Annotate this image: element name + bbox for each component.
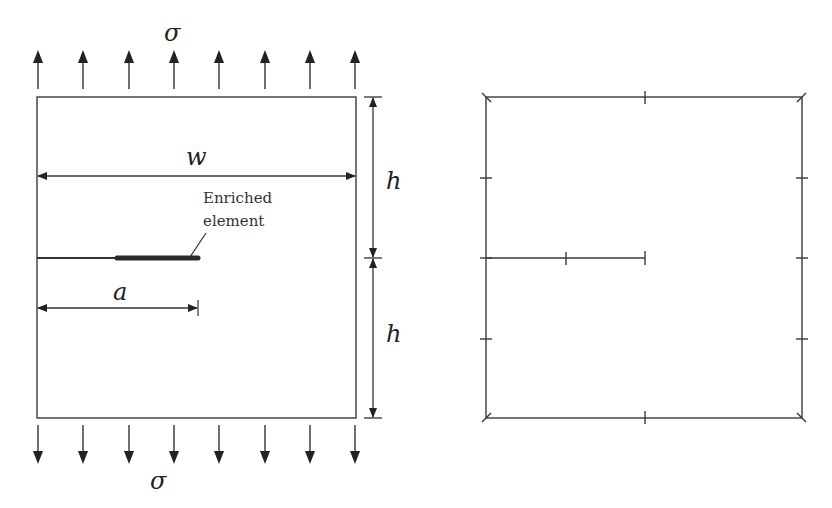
arrow-down-icon [33, 425, 43, 464]
arrow-down-icon [350, 425, 360, 464]
arrow-down-icon [169, 425, 179, 464]
arrow-down-icon [78, 425, 88, 464]
half-height-label-lower: h [386, 320, 401, 348]
half-height-label-upper: h [386, 167, 401, 195]
arrow-down-icon [214, 425, 224, 464]
arrow-up-icon [305, 50, 315, 89]
arrow-up-icon [214, 50, 224, 89]
right-panel [480, 91, 808, 424]
top-load-arrows [33, 50, 360, 89]
arrow-down-icon [260, 425, 270, 464]
sigma-label-bottom: σ [150, 467, 167, 495]
arrow-up-icon [350, 50, 360, 89]
bottom-load-arrows [33, 425, 360, 464]
annotation-leader-line [190, 233, 206, 257]
annotation-element: element [203, 212, 264, 230]
width-label: w [186, 143, 207, 171]
diagram-canvas: σ w Enriched element a [0, 0, 832, 508]
arrow-up-icon [260, 50, 270, 89]
arrow-up-icon [78, 50, 88, 89]
arrow-up-icon [169, 50, 179, 89]
arrow-down-icon [124, 425, 134, 464]
arrow-down-icon [305, 425, 315, 464]
height-dimension [364, 97, 382, 418]
crack-length-label: a [113, 278, 127, 306]
arrow-up-icon [33, 50, 43, 89]
annotation-enriched: Enriched [203, 189, 273, 207]
arrow-up-icon [124, 50, 134, 89]
sigma-label-top: σ [164, 19, 181, 47]
left-panel: σ w Enriched element a [33, 19, 401, 495]
